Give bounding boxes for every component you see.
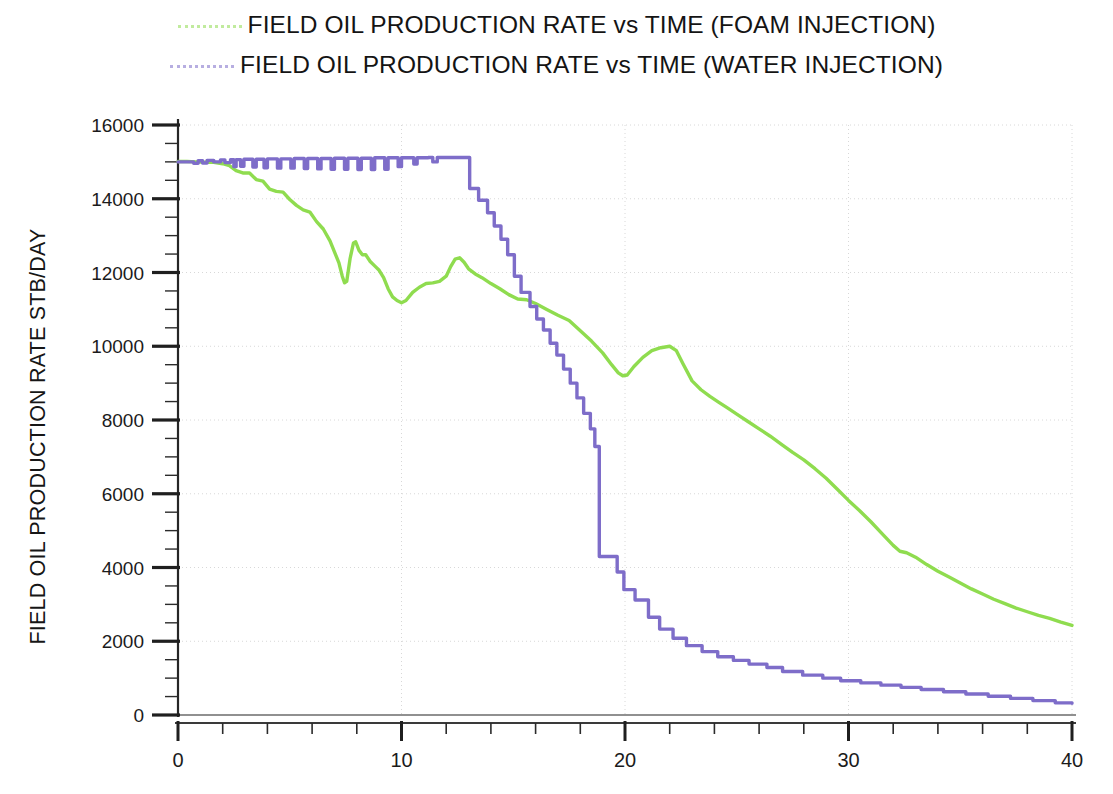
x-tick-label: 20 [614, 749, 636, 771]
chart-plot-area: 0200040006000800010000120001400016000010… [0, 94, 1113, 794]
x-tick-label: 0 [172, 749, 183, 771]
chart-legend: FIELD OIL PRODUCTION RATE vs TIME (FOAM … [0, 2, 1113, 94]
y-tick-label: 4000 [102, 558, 144, 579]
axis-ticks [152, 125, 1072, 741]
y-axis-title: FIELD OIL PRODUCTION RATE STB/DAY [26, 137, 51, 737]
y-tick-label: 12000 [91, 263, 144, 284]
x-tick-label: 30 [837, 749, 859, 771]
legend-label-foam: FIELD OIL PRODUCTION RATE vs TIME (FOAM … [248, 11, 936, 39]
x-tick-label: 40 [1061, 749, 1083, 771]
legend-line-sample-water [170, 65, 234, 69]
y-tick-label: 14000 [91, 189, 144, 210]
axis-tick-labels: 0200040006000800010000120001400016000010… [91, 115, 1083, 771]
y-tick-label: 0 [133, 705, 144, 726]
y-tick-label: 2000 [102, 631, 144, 652]
y-tick-label: 16000 [91, 115, 144, 136]
y-tick-label: 10000 [91, 336, 144, 357]
y-tick-label: 8000 [102, 410, 144, 431]
legend-label-water: FIELD OIL PRODUCTION RATE vs TIME (WATER… [240, 51, 943, 79]
y-tick-label: 6000 [102, 484, 144, 505]
x-tick-label: 10 [390, 749, 412, 771]
legend-item-foam: FIELD OIL PRODUCTION RATE vs TIME (FOAM … [0, 6, 1113, 44]
legend-item-water: FIELD OIL PRODUCTION RATE vs TIME (WATER… [0, 46, 1113, 84]
chart-svg: 0200040006000800010000120001400016000010… [0, 94, 1113, 794]
legend-line-sample-foam [178, 25, 242, 29]
